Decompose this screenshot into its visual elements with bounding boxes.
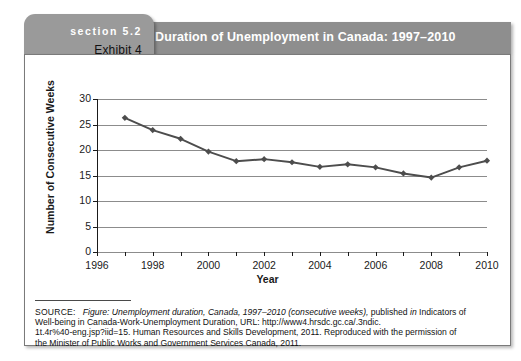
- data-point-2006: [372, 164, 378, 170]
- x-tick-mark-2004: [320, 252, 321, 256]
- x-tick-label-1996: 1996: [75, 259, 119, 271]
- x-tick-mark-1997: [125, 252, 126, 256]
- data-point-2003: [289, 159, 295, 165]
- x-tick-mark-2009: [459, 252, 460, 256]
- x-tick-label-2010: 2010: [465, 259, 509, 271]
- source-line1-in: in: [408, 307, 417, 317]
- data-point-2004: [317, 164, 323, 170]
- source-line1-italic: Figure: Unemployment duration, Canada, 1…: [83, 307, 369, 317]
- x-tick-mark-2010: [487, 252, 488, 256]
- source-divider: [35, 300, 131, 301]
- y-tick-label-25: 25: [51, 119, 91, 130]
- source-label: SOURCE:: [35, 307, 76, 317]
- exhibit-header-bar: Duration of Unemployment in Canada: 1997…: [134, 22, 511, 54]
- x-tick-label-2004: 2004: [298, 259, 342, 271]
- section-label: section 5.2: [24, 25, 142, 37]
- x-tick-mark-1996: [97, 252, 98, 256]
- y-tick-label-10: 10: [51, 195, 91, 206]
- source-line2: Well-being in Canada-Work-Unemployment D…: [35, 317, 501, 327]
- x-tick-mark-2008: [431, 252, 432, 256]
- exhibit-container: Duration of Unemployment in Canada: 1997…: [0, 0, 521, 361]
- data-point-2001: [233, 158, 239, 164]
- source-line4: the Minister of Public Works and Governm…: [35, 338, 501, 348]
- data-point-2007: [400, 170, 406, 176]
- x-tick-label-2002: 2002: [242, 259, 286, 271]
- data-point-1998: [150, 127, 156, 133]
- x-tick-mark-2007: [403, 252, 404, 256]
- line-chart: Number of Consecutive Weeks Year 0510152…: [25, 55, 510, 291]
- y-tick-label-20: 20: [51, 144, 91, 155]
- exhibit-title: Duration of Unemployment in Canada: 1997…: [155, 30, 456, 44]
- data-point-2005: [345, 161, 351, 167]
- x-tick-mark-1999: [181, 252, 182, 256]
- plot-area: 051015202530 199619982000200220042006200…: [97, 99, 487, 251]
- x-tick-mark-2001: [236, 252, 237, 256]
- x-tick-mark-2000: [208, 252, 209, 256]
- data-point-2008: [428, 174, 434, 180]
- y-tick-label-15: 15: [51, 170, 91, 181]
- x-tick-mark-2005: [348, 252, 349, 256]
- y-tick-label-30: 30: [51, 93, 91, 104]
- x-tick-label-2006: 2006: [354, 259, 398, 271]
- y-tick-label-5: 5: [51, 221, 91, 232]
- x-tick-label-2008: 2008: [409, 259, 453, 271]
- x-tick-mark-2003: [292, 252, 293, 256]
- source-line3: 1t.4r%40-eng.jsp?iid=15. Human Resources…: [35, 327, 501, 337]
- series-line: [125, 118, 487, 178]
- data-point-2010: [484, 158, 490, 164]
- source-note: SOURCE: Figure: Unemployment duration, C…: [35, 307, 501, 348]
- x-tick-mark-2002: [264, 252, 265, 256]
- data-point-2000: [205, 148, 211, 154]
- x-tick-label-2000: 2000: [186, 259, 230, 271]
- x-tick-label-1998: 1998: [131, 259, 175, 271]
- x-tick-mark-1998: [153, 252, 154, 256]
- data-point-1999: [177, 136, 183, 142]
- source-line1-tail: Indicators of: [417, 307, 466, 317]
- x-tick-mark-2006: [376, 252, 377, 256]
- data-point-2009: [456, 164, 462, 170]
- exhibit-content-box: Number of Consecutive Weeks Year 0510152…: [24, 54, 511, 346]
- x-axis-label: Year: [25, 273, 510, 285]
- y-tick-label-0: 0: [51, 246, 91, 257]
- data-series-unemployment-duration: [97, 99, 487, 252]
- data-point-1997: [122, 115, 128, 121]
- source-line1-published: published: [368, 307, 407, 317]
- data-point-2002: [261, 156, 267, 162]
